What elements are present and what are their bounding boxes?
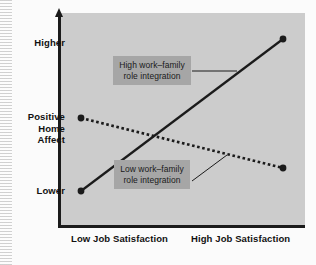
series-point-high-integration-high-js bbox=[280, 36, 287, 43]
annotation-low-work-family-role-integration: Low work–family role integration bbox=[114, 160, 190, 189]
annotation-low-line-2: role integration bbox=[120, 175, 184, 186]
chart-page: Higher Positive Home Affect Lower Low Jo… bbox=[0, 0, 316, 265]
line-chart: Higher Positive Home Affect Lower Low Jo… bbox=[0, 0, 316, 265]
annotation-low-line-1: Low work–family bbox=[120, 164, 184, 175]
annotation-high-line-2: role integration bbox=[119, 71, 185, 82]
annotation-leader-low bbox=[192, 155, 227, 181]
series-point-low-integration-low-js bbox=[78, 115, 85, 122]
series-point-high-integration-low-js bbox=[78, 188, 85, 195]
annotation-high-work-family-role-integration: High work–family role integration bbox=[113, 56, 191, 85]
chart-series-layer bbox=[0, 0, 316, 265]
annotation-high-line-1: High work–family bbox=[119, 60, 185, 71]
series-point-low-integration-high-js bbox=[280, 165, 287, 172]
